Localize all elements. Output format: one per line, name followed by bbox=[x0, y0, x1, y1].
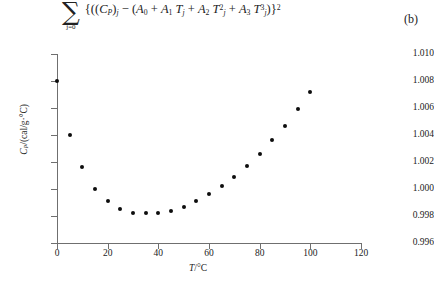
y-tick-label: 1.010 bbox=[390, 48, 434, 58]
ylabel-p: P bbox=[23, 145, 29, 149]
x-tick-label: 40 bbox=[138, 248, 178, 258]
tok-a1: A bbox=[161, 2, 169, 16]
x-tick-label: 20 bbox=[88, 248, 128, 258]
panel-label: (b) bbox=[404, 12, 418, 27]
y-tick-label: 0.996 bbox=[390, 237, 434, 247]
data-point bbox=[296, 107, 300, 111]
scatter-plot: 0.9960.9981.0001.0021.0041.0061.0081.010… bbox=[0, 40, 434, 287]
data-point bbox=[106, 199, 110, 203]
data-point bbox=[118, 207, 122, 211]
data-point bbox=[245, 164, 249, 168]
x-tick-label: 0 bbox=[37, 248, 77, 258]
data-point bbox=[131, 211, 135, 215]
sigma-glyph: ∑ bbox=[62, 0, 80, 26]
tok-a0-sub: 0 bbox=[144, 8, 148, 17]
x-axis-label: T/°C bbox=[189, 263, 207, 273]
tok-a0: A bbox=[136, 2, 144, 16]
tok-t1: T bbox=[176, 2, 183, 16]
y-tick-label: 1.000 bbox=[390, 183, 434, 193]
y-tick bbox=[51, 135, 57, 136]
data-point bbox=[232, 175, 236, 179]
data-point bbox=[55, 79, 59, 83]
tok-a3: A bbox=[239, 2, 247, 16]
y-tick bbox=[51, 162, 57, 163]
tok-a1-sub: 1 bbox=[169, 8, 173, 17]
tok-cp: C bbox=[99, 2, 107, 16]
y-tick-label: 0.998 bbox=[390, 210, 434, 220]
tok-minus: − bbox=[122, 2, 129, 16]
tok-plus-3: + bbox=[229, 2, 236, 16]
tok-a2-sub: 2 bbox=[206, 8, 210, 17]
data-point bbox=[270, 138, 274, 142]
tok-a3-sub: 3 bbox=[247, 8, 251, 17]
summation-sigma-icon: 20 ∑ j=0 bbox=[62, 2, 80, 22]
tok-close: )} bbox=[267, 2, 277, 16]
y-tick bbox=[51, 108, 57, 109]
data-point bbox=[207, 192, 211, 196]
tok-open: {(( bbox=[85, 2, 99, 16]
data-point bbox=[308, 90, 312, 94]
data-point bbox=[220, 184, 224, 188]
data-point bbox=[182, 205, 186, 209]
sum-lower-limit: j=0 bbox=[66, 25, 75, 31]
tok-t2: T bbox=[213, 2, 220, 16]
data-point bbox=[156, 211, 160, 215]
data-point bbox=[169, 209, 173, 213]
x-tick-label: 100 bbox=[290, 248, 330, 258]
data-point bbox=[93, 187, 97, 191]
data-point bbox=[283, 124, 287, 128]
tok-t1-sub: j bbox=[183, 8, 185, 17]
y-tick bbox=[51, 54, 57, 55]
tok-a2: A bbox=[198, 2, 206, 16]
tok-t2-sub: j bbox=[223, 8, 225, 17]
y-tick bbox=[51, 216, 57, 217]
x-tick-label: 60 bbox=[189, 248, 229, 258]
summation-formula: 20 ∑ j=0 {((CP)j − (A0 + A1 Tj + A2 T2j … bbox=[62, 2, 281, 22]
xlabel-unit: /°C bbox=[194, 263, 207, 273]
tok-t3: T bbox=[254, 2, 261, 16]
formula-body: {((CP)j − (A0 + A1 Tj + A2 T2j + A3 T3j)… bbox=[85, 2, 281, 16]
tok-outer-sup: 2 bbox=[277, 3, 281, 12]
x-tick-label: 80 bbox=[240, 248, 280, 258]
y-tick-label: 1.002 bbox=[390, 156, 434, 166]
data-point bbox=[144, 211, 148, 215]
data-point bbox=[258, 152, 262, 156]
formula-row: 20 ∑ j=0 {((CP)j − (A0 + A1 Tj + A2 T2j … bbox=[0, 0, 434, 40]
ylabel-c: C bbox=[19, 148, 29, 154]
data-point bbox=[80, 165, 84, 169]
y-tick-label: 1.006 bbox=[390, 102, 434, 112]
y-tick-label: 1.008 bbox=[390, 75, 434, 85]
data-point bbox=[194, 199, 198, 203]
tok-plus-2: + bbox=[188, 2, 195, 16]
tok-j-sub: j bbox=[116, 8, 118, 17]
ylabel-unit: /(cal/g·°C) bbox=[19, 104, 29, 145]
y-axis-label: CP/(cal/g·°C) bbox=[19, 79, 30, 179]
x-tick-label: 120 bbox=[341, 248, 381, 258]
y-tick bbox=[51, 189, 57, 190]
data-point bbox=[68, 133, 72, 137]
y-tick-label: 1.004 bbox=[390, 129, 434, 139]
tok-plus-1: + bbox=[151, 2, 158, 16]
